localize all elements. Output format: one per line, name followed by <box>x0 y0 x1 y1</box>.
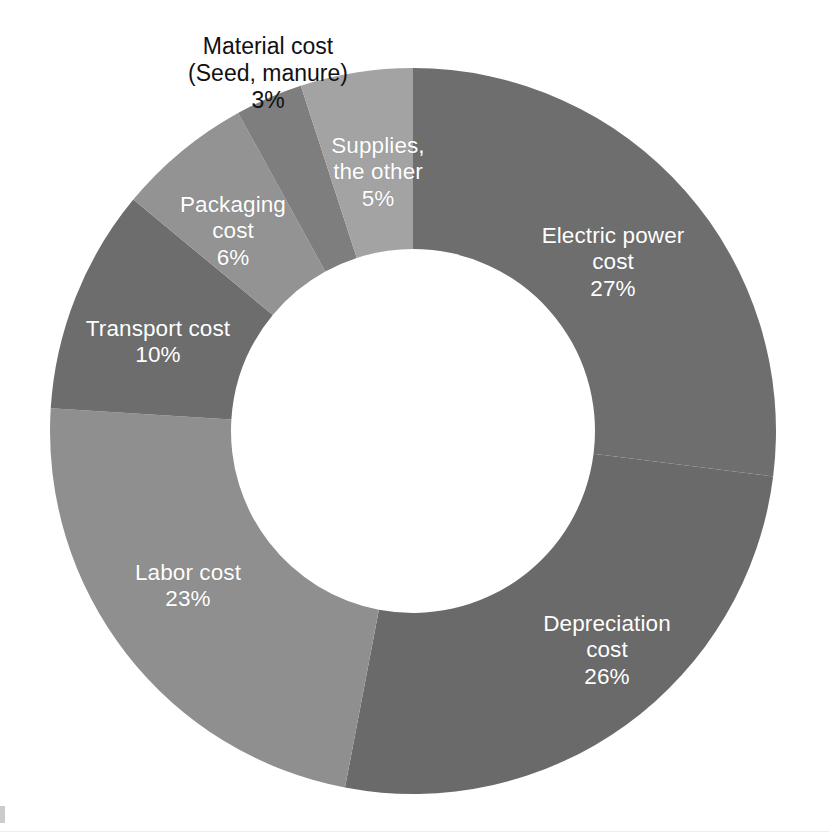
slice-label-text: Electric power cost <box>542 223 685 276</box>
slice-label-depreciation-cost: Depreciation cost26% <box>543 611 671 690</box>
slice-label-packaging-cost: Packaging cost6% <box>180 192 286 271</box>
slice-label-value: 26% <box>543 663 671 689</box>
scan-artifact <box>0 806 5 823</box>
slice-label-electric-power-cost: Electric power cost27% <box>542 223 685 302</box>
slice-label-value: 6% <box>180 244 286 270</box>
slice-label-text: Material cost (Seed, manure) <box>188 33 348 87</box>
slice-label-text: Packaging cost <box>180 192 286 245</box>
scan-edge-line <box>0 831 829 832</box>
slice-label-transport-cost: Transport cost10% <box>86 316 230 369</box>
slice-label-text: Labor cost <box>135 560 241 586</box>
slice-label-value: 10% <box>86 342 230 368</box>
slice-label-value: 23% <box>135 586 241 612</box>
slice-label-value: 3% <box>188 86 348 113</box>
slice-label-value: 27% <box>542 275 685 301</box>
slice-label-labor-cost: Labor cost23% <box>135 560 241 613</box>
slice-label-text: Supplies, the other <box>331 133 424 186</box>
slice-label-text: Depreciation cost <box>543 611 671 664</box>
slice-label-material-cost-seed-manure: Material cost (Seed, manure)3% <box>188 33 348 114</box>
slice-label-text: Transport cost <box>86 316 230 342</box>
slice-label-supplies-the-other: Supplies, the other5% <box>331 133 424 212</box>
donut-chart-svg <box>0 0 829 835</box>
donut-chart: Electric power cost27%Depreciation cost2… <box>0 0 829 835</box>
slice-label-value: 5% <box>331 185 424 211</box>
